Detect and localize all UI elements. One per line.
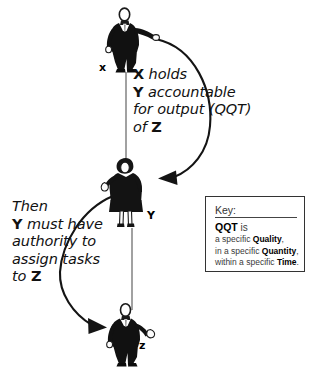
entity-label-x: x [99,62,106,73]
statement-bottom-line-3: authority to [12,233,103,251]
statement-top-line-4: of Z [133,119,251,137]
key-box: Key: QQT is a specific Quality, in a spe… [205,196,305,272]
statement-top-text: X holds Y accountable for output (QQT) o… [133,66,251,136]
diagram-canvas: X holds Y accountable for output (QQT) o… [0,0,313,369]
key-line-quality-suffix: , [282,234,284,244]
key-term-qqt: QQT [215,221,238,233]
key-line-quantity-prefix: in a specific [215,246,262,256]
key-title: Key: [215,204,297,218]
statement-bottom-line-2: Y must have [12,216,103,234]
key-line-quantity-suffix: , [296,246,298,256]
statement-bottom-line-1: Then [12,198,103,216]
statement-top-line-3: for output (QQT) [133,101,251,119]
entity-label-y: Y [147,210,155,221]
key-term-quality: Quality [253,234,282,244]
key-lead-line: QQT is [215,221,297,234]
key-line-quality-prefix: a specific [215,234,253,244]
diagram-artwork [0,0,313,369]
key-lead-suffix: is [238,222,248,233]
statement-bottom-line-5: to Z [12,268,103,286]
key-line-time-prefix: within a specific [215,257,277,267]
statement-bottom-text: Then Y must have authority to assign tas… [12,198,103,286]
key-line-time: within a specific Time. [215,257,297,269]
key-line-quantity: in a specific Quantity, [215,246,297,258]
figure-z [107,304,155,367]
entity-label-z: z [139,340,145,351]
key-line-time-suffix: . [297,257,299,267]
figure-y [101,158,143,227]
key-line-quality: a specific Quality, [215,234,297,246]
statement-bottom-line-4: assign tasks [12,251,103,269]
key-term-quantity: Quantity [262,246,296,256]
statement-top-line-1: X holds [133,66,251,84]
statement-top-line-2: Y accountable [133,84,251,102]
key-term-time: Time [277,257,297,267]
figure-x [106,8,160,72]
